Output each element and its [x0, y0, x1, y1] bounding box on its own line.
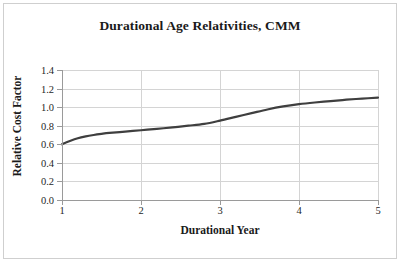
gridline-vertical [378, 70, 379, 200]
y-axis-line [62, 70, 63, 201]
y-axis-tick-label: 1.2 [28, 83, 54, 94]
y-axis-tick-label: 0.0 [28, 195, 54, 206]
plot-area [62, 70, 378, 200]
y-axis-tick [57, 163, 62, 164]
x-axis-tick-label: 3 [210, 205, 230, 216]
y-axis-tick [57, 89, 62, 90]
chart-figure: Durational Age Relativities, CMM Relativ… [0, 0, 400, 262]
x-axis-tick-label: 4 [289, 205, 309, 216]
y-axis-tick [57, 181, 62, 182]
y-axis-tick-labels: 0.00.20.40.60.81.01.21.4 [26, 0, 54, 262]
x-axis-tick-label: 1 [52, 205, 72, 216]
line-series-path [62, 98, 378, 145]
y-axis-title: Relative Cost Factor [11, 61, 23, 191]
y-axis-tick-label: 1.4 [28, 65, 54, 76]
chart-title: Durational Age Relativities, CMM [0, 18, 400, 34]
y-axis-tick-label: 0.4 [28, 157, 54, 168]
x-axis-title: Durational Year [62, 224, 378, 236]
x-axis-tick-label: 5 [368, 205, 388, 216]
y-axis-tick [57, 144, 62, 145]
y-axis-tick-label: 1.0 [28, 102, 54, 113]
y-axis-tick-label: 0.8 [28, 120, 54, 131]
y-axis-tick [57, 107, 62, 108]
y-axis-tick-label: 0.6 [28, 139, 54, 150]
line-series-svg [62, 70, 378, 200]
y-axis-tick-label: 0.2 [28, 176, 54, 187]
y-axis-tick [57, 126, 62, 127]
y-axis-tick [57, 70, 62, 71]
x-axis-tick-label: 2 [131, 205, 151, 216]
